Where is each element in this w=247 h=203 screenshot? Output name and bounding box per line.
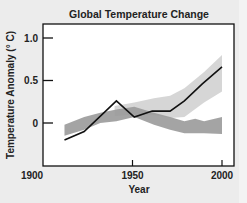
x-tick-label: 1900 bbox=[21, 170, 44, 181]
y-tick-label: 1.0 bbox=[24, 33, 38, 44]
y-tick-label: 0 bbox=[32, 118, 38, 129]
x-axis-label: Year bbox=[128, 184, 149, 195]
y-tick-label: 0.5 bbox=[24, 75, 38, 86]
chart-title: Global Temperature Change bbox=[69, 8, 209, 20]
x-tick-label: 1950 bbox=[121, 170, 144, 181]
x-tick-label: 2000 bbox=[211, 170, 234, 181]
y-axis-label: Temperature Anomaly (° C) bbox=[5, 31, 16, 159]
chart: Global Temperature Change 1.00.50 190019… bbox=[0, 0, 247, 203]
